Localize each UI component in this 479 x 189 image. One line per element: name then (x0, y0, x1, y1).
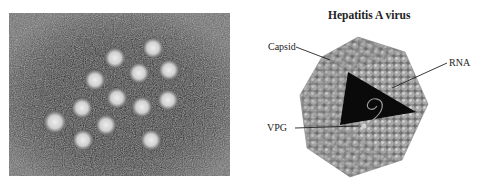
vpg-protein (361, 123, 366, 128)
virus-diagram: Hepatitis A virus Capsi (240, 0, 479, 189)
label-capsid: Capsid (268, 41, 296, 52)
electron-micrograph (9, 13, 230, 176)
icosahedron-capsid-illustration (240, 0, 479, 189)
label-rna: RNA (449, 57, 470, 68)
label-vpg: VPG (267, 122, 287, 133)
